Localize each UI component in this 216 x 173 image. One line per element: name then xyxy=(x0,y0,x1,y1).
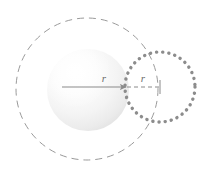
inner-radius-label: r xyxy=(141,72,146,84)
outer-radius-label: r xyxy=(102,72,107,84)
diagram-canvas: r r xyxy=(0,0,216,173)
physics-diagram-figure: r r xyxy=(0,0,216,173)
shaded-sphere xyxy=(47,49,129,131)
